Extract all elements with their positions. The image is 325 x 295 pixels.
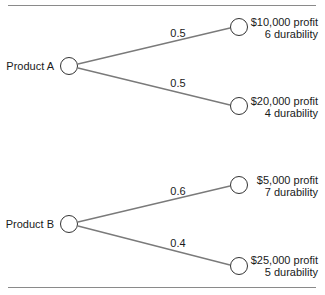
outcome-b1-profit: $5,000 profit [218, 174, 318, 186]
probability-a2: 0.5 [163, 77, 193, 89]
probability-a1: 0.5 [163, 27, 193, 39]
decision-tree-diagram [0, 0, 325, 295]
root-label-product-a: Product A [0, 60, 54, 72]
branch-b2-line [78, 226, 230, 265]
branch-b1-line [78, 186, 230, 222]
probability-b2: 0.4 [163, 237, 193, 249]
outcome-a1-profit: $10,000 profit [218, 16, 318, 28]
node-product-b [61, 216, 78, 233]
outcome-a2-profit: $20,000 profit [218, 95, 318, 107]
outcome-b1-durability: 7 durability [218, 186, 318, 198]
outcome-a1-durability: 6 durability [218, 28, 318, 40]
outcome-a2-durability: 4 durability [218, 107, 318, 119]
outcome-b2-durability: 5 durability [218, 266, 318, 278]
root-label-product-b: Product B [0, 218, 54, 230]
node-product-a [61, 58, 78, 75]
outcome-b2-profit: $25,000 profit [218, 254, 318, 266]
branch-a1-line [78, 28, 230, 64]
branch-a2-line [78, 68, 230, 105]
probability-b1: 0.6 [163, 185, 193, 197]
